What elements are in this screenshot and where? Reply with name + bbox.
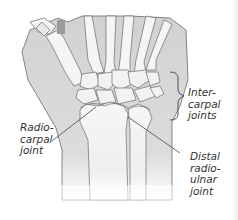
- wrist-anatomy-diagram: Inter- carpal joints Radio- carpal joint…: [0, 0, 238, 220]
- label-distal-radioulnar-joint: Distal radio- ulnar joint: [190, 151, 221, 197]
- page-edge-shadow: [232, 0, 238, 220]
- label-radiocarpal-joint: Radio- carpal joint: [20, 122, 54, 157]
- label-intercarpal-joints: Inter- carpal joints: [188, 87, 221, 122]
